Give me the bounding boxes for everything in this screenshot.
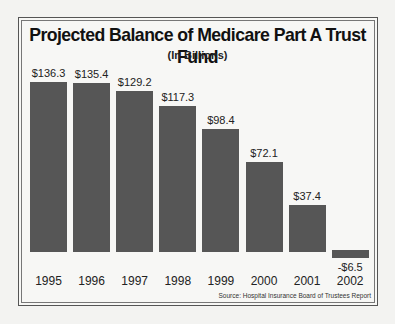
value-label-2000: $72.1 bbox=[239, 147, 289, 159]
value-label-1998: $117.3 bbox=[153, 91, 203, 103]
chart-subtitle: (In Billions) bbox=[0, 49, 395, 61]
bar-2002 bbox=[332, 250, 369, 258]
bar-1996 bbox=[73, 83, 110, 252]
bar-2000 bbox=[246, 162, 283, 252]
x-tick-2002: 2002 bbox=[325, 274, 375, 288]
value-label-1999: $98.4 bbox=[196, 114, 246, 126]
source-note: Source: Hospital Insurance Board of Trus… bbox=[219, 292, 371, 299]
value-label-2002: -$6.5 bbox=[325, 261, 375, 273]
bar-1995 bbox=[30, 82, 67, 252]
bar-1998 bbox=[159, 106, 196, 252]
value-label-1997: $129.2 bbox=[110, 76, 160, 88]
bar-1999 bbox=[202, 129, 239, 252]
bar-2001 bbox=[289, 205, 326, 252]
value-label-2001: $37.4 bbox=[282, 190, 332, 202]
bar-1997 bbox=[116, 91, 153, 252]
chart-title: Projected Balance of Medicare Part A Tru… bbox=[14, 24, 381, 68]
